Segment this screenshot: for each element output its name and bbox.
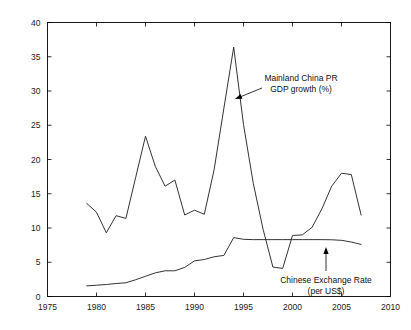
axes-layer: 0510152025303540197519801985199019952000… [31, 18, 400, 312]
x-axis-tick-label: 1990 [185, 302, 204, 312]
x-axis-tick-label: 1980 [87, 302, 106, 312]
annotation-leader-line [240, 88, 262, 97]
exchange-rate-annotation: Chinese Exchange Rate(per US$) [280, 247, 372, 296]
y-axis-tick-label: 25 [31, 120, 41, 130]
x-axis-tick-label: 2005 [332, 302, 351, 312]
chart-container: 0510152025303540197519801985199019952000… [0, 0, 411, 330]
y-axis-tick-label: 40 [31, 18, 41, 28]
annotation-arrowhead [323, 247, 328, 254]
annotation-layer: Mainland China PRGDP growth (%)Chinese E… [235, 73, 372, 296]
y-axis-tick-label: 15 [31, 189, 41, 199]
plot-frame [48, 23, 391, 297]
annotation-label-line: Mainland China PR [264, 73, 337, 83]
x-axis-tick-label: 2000 [283, 302, 302, 312]
annotation-label-line: (per US$) [308, 286, 345, 296]
annotation-label-line: Chinese Exchange Rate [280, 275, 372, 285]
y-axis-tick-label: 30 [31, 86, 41, 96]
y-axis-tick-label: 20 [31, 155, 41, 165]
y-axis-tick-label: 5 [36, 257, 41, 267]
x-axis-tick-label: 1975 [38, 302, 57, 312]
y-axis-tick-label: 0 [36, 292, 41, 302]
x-axis-tick-label: 1995 [234, 302, 253, 312]
y-axis-tick-label: 10 [31, 223, 41, 233]
annotation-label-line: GDP growth (%) [270, 84, 332, 94]
annotation-label: Chinese Exchange Rate(per US$) [280, 275, 372, 296]
y-axis-tick-label: 35 [31, 52, 41, 62]
annotation-arrowhead [235, 94, 242, 99]
annotation-label: Mainland China PRGDP growth (%) [264, 73, 337, 94]
line-chart: 0510152025303540197519801985199019952000… [0, 0, 411, 330]
x-axis-tick-label: 1985 [136, 302, 155, 312]
gdp-growth-annotation: Mainland China PRGDP growth (%) [235, 73, 338, 99]
x-axis-tick-label: 2010 [381, 302, 400, 312]
